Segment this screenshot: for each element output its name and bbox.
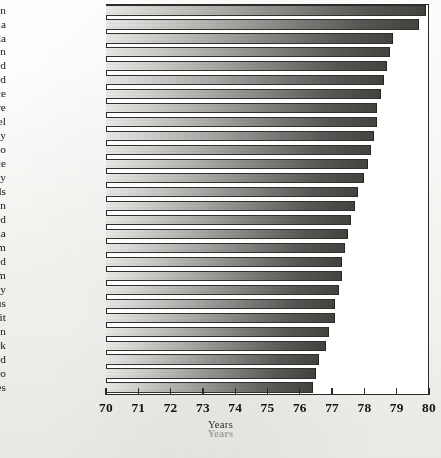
category-label-spain: Spain [0,200,6,211]
category-label-new-zealand: New Zealand [0,214,6,225]
bar-row [106,269,429,282]
bar-kuwait [106,313,335,323]
category-label-monaco: Monaco [0,144,6,155]
x-tick-label-77: 77 [325,400,339,416]
category-label-taiwan: Taiwan [0,326,6,337]
category-label-netherlands: Netherlands [0,186,6,197]
bar-australia [106,19,419,29]
x-tick-72 [170,388,171,395]
x-tick-78 [364,388,365,395]
bar-montenegro [106,368,316,378]
category-label-denmark: Denmark [0,340,6,351]
bar-norway [106,173,364,183]
x-tick-71 [138,388,139,395]
bar-row [106,130,429,143]
bar-row [106,172,429,185]
bar-singapore [106,103,377,113]
category-label-finland: Finland [0,256,6,267]
x-tick-70 [105,388,106,395]
category-label-austria: Austria [0,228,6,239]
category-label-sweden: Sweden [0,46,6,57]
category-label-cyprus: Cyprus [0,298,6,309]
bar-row [106,339,429,352]
bar-row [106,102,429,115]
x-tick-label-74: 74 [228,400,242,416]
bar-row [106,353,429,366]
x-tick-75 [267,388,268,395]
bar-france [106,89,381,99]
x-tick-79 [396,388,397,395]
bar-monaco [106,145,371,155]
bar-row [106,227,429,240]
category-label-australia: Australia [0,19,6,30]
x-tick-label-71: 71 [131,400,145,416]
bar-row [106,186,429,199]
bar-row [106,74,429,87]
bar-row [106,158,429,171]
bar-finland [106,257,342,267]
category-label-montenegro: Montenegro [0,368,6,379]
bar-row [106,4,429,17]
x-tick-74 [235,388,236,395]
bar-switzerland [106,61,387,71]
category-label-iceland: Iceland [0,74,6,85]
x-tick-label-72: 72 [164,400,178,416]
bar-row [106,241,429,254]
bar-germany [106,285,339,295]
bar-canada [106,33,393,43]
category-label-france: France [0,88,6,99]
bar-row [106,255,429,268]
bar-israel [106,117,377,127]
x-tick-label-79: 79 [390,400,404,416]
bar-spain [106,201,355,211]
bar-taiwan [106,327,329,337]
x-tick-77 [331,388,332,395]
x-tick-label-75: 75 [261,400,275,416]
bar-row [106,297,429,310]
bar-row [106,325,429,338]
category-label-greece: Greece [0,158,6,169]
category-label-norway: Norway [0,172,6,183]
category-label-belgium: Belgium [0,242,6,253]
bar-cyprus [106,299,335,309]
x-tick-label-76: 76 [293,400,307,416]
bar-row [106,144,429,157]
category-label-singapore: Singapore [0,102,6,113]
bar-belgium [106,243,345,253]
bar-row [106,32,429,45]
x-tick-label-70: 70 [99,400,113,416]
x-tick-73 [202,388,203,395]
x-tick-label-78: 78 [357,400,371,416]
bar-new-zealand [106,215,351,225]
category-label-united-kingdom: United Kingdom [0,270,6,281]
bars-container [106,4,429,395]
life-expectancy-bar-chart: JapanAustraliaCanadaSwedenSwitzerlandIce… [0,0,441,458]
x-tick-76 [299,388,300,395]
x-tick-80 [428,388,429,395]
bar-greece [106,159,368,169]
bar-row [106,88,429,101]
bar-united-kingdom [106,271,342,281]
bar-row [106,18,429,31]
bar-netherlands [106,187,358,197]
bar-denmark [106,341,326,351]
bar-row [106,311,429,324]
bar-italy [106,131,374,141]
category-label-italy: Italy [0,130,6,141]
bar-row [106,213,429,226]
category-label-switzerland: Switzerland [0,60,6,71]
bar-row [106,116,429,129]
bar-iceland [106,75,384,85]
x-axis-title-ghost-artifact: Years [0,428,441,439]
x-tick-label-73: 73 [196,400,210,416]
bar-austria [106,229,348,239]
category-label-germany: Germany [0,284,6,295]
bar-row [106,200,429,213]
category-label-canada: Canada [0,33,6,44]
bar-row [106,46,429,59]
x-tick-label-80: 80 [422,400,436,416]
bar-japan [106,5,426,15]
bar-sweden [106,47,390,57]
category-label-japan: Japan [0,5,6,16]
bar-row [106,367,429,380]
